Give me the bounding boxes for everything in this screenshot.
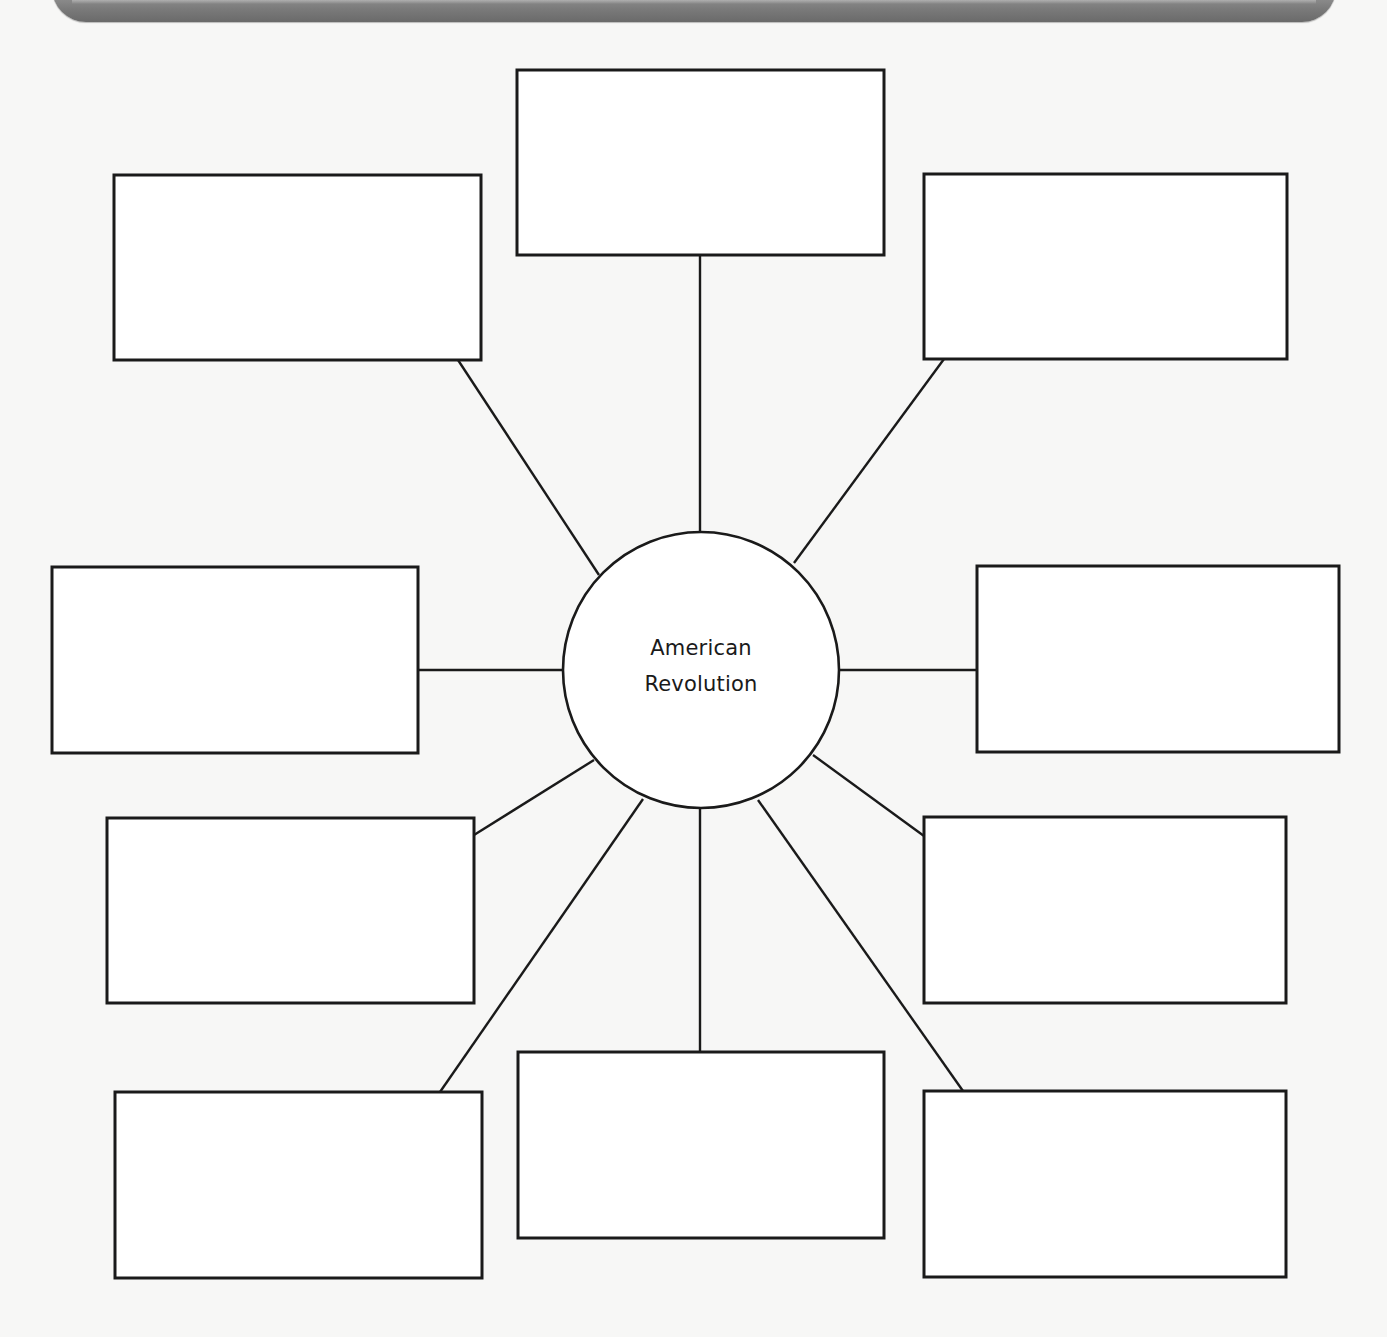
center-topic-line-1: American bbox=[601, 630, 801, 666]
center-topic-line-2: Revolution bbox=[601, 666, 801, 702]
branch-box-left[interactable] bbox=[52, 567, 418, 753]
connector-middle-left bbox=[474, 760, 594, 835]
branch-box-middle-right[interactable] bbox=[924, 817, 1286, 1003]
connector-middle-right bbox=[813, 755, 924, 836]
center-topic-label: American Revolution bbox=[601, 630, 801, 702]
branch-box-right[interactable] bbox=[977, 566, 1339, 752]
branch-box-top[interactable] bbox=[517, 70, 884, 255]
branch-box-bottom-center[interactable] bbox=[518, 1052, 884, 1238]
branch-box-top-left[interactable] bbox=[114, 175, 481, 360]
branch-box-top-right[interactable] bbox=[924, 174, 1287, 359]
branch-box-bottom-left[interactable] bbox=[115, 1092, 482, 1278]
connector-top-left bbox=[458, 360, 599, 575]
connector-top-right bbox=[794, 359, 944, 563]
branch-box-bottom-right[interactable] bbox=[924, 1091, 1286, 1277]
branch-box-middle-left[interactable] bbox=[107, 818, 474, 1003]
